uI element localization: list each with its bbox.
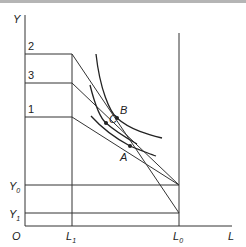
point-c-marker xyxy=(104,121,108,125)
level-1-label: 1 xyxy=(28,103,34,115)
point-c-label: C xyxy=(109,113,117,125)
l0-label: L0 xyxy=(173,230,183,244)
origin-label: O xyxy=(12,230,21,242)
point-a-marker xyxy=(128,144,132,148)
y1-label: Y1 xyxy=(9,208,20,222)
point-b-label: B xyxy=(120,104,127,116)
x-axis-label: L xyxy=(228,230,234,242)
labor-leisure-diagram: Y L O 2 3 1 Y0 Y1 L1 L0 B C A xyxy=(0,0,246,247)
indifference-curve-b xyxy=(96,54,162,138)
y-axis-label: Y xyxy=(13,13,21,25)
l1-label: L1 xyxy=(66,230,76,244)
budget-line-3 xyxy=(72,83,179,185)
point-a-label: A xyxy=(119,151,127,163)
y0-label: Y0 xyxy=(9,180,20,194)
level-2-label: 2 xyxy=(28,40,34,52)
level-3-label: 3 xyxy=(28,69,34,81)
